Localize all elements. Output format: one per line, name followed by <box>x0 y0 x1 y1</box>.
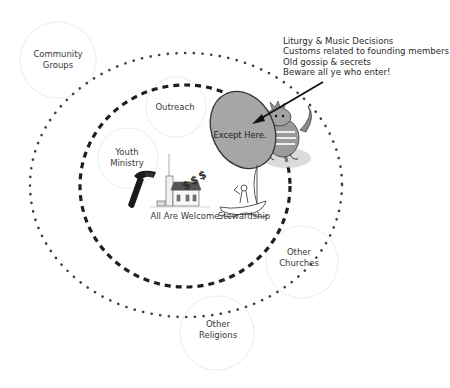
warning-note: Liturgy & Music Decisions Customs relate… <box>283 36 449 78</box>
label-line: Groups <box>33 60 82 71</box>
youth-ministry-label: Youth Ministry <box>110 147 144 169</box>
label-line: Community <box>33 49 82 60</box>
outreach-label: Outreach <box>155 102 194 113</box>
hammer-icon <box>128 171 156 208</box>
label-line: Youth <box>110 147 144 158</box>
sailboat-icon <box>220 165 268 217</box>
label-line: Ministry <box>110 158 144 169</box>
note-line: Liturgy & Music Decisions <box>283 36 449 46</box>
community-groups-label: Community Groups <box>33 49 82 71</box>
note-line: Beware all ye who enter! <box>283 67 449 77</box>
label-line: Other <box>199 319 237 330</box>
label-line: Churches <box>279 258 319 269</box>
all-are-welcome-label: All Are Welcome <box>150 211 219 222</box>
note-line: Old gossip & secrets <box>283 57 449 67</box>
except-here-label: Except Here. <box>213 130 266 141</box>
label-line: Other <box>279 247 319 258</box>
other-religions-label: Other Religions <box>199 319 237 341</box>
other-churches-label: Other Churches <box>279 247 319 269</box>
stewardship-label: Stewardship <box>218 211 270 222</box>
note-line: Customs related to founding members <box>283 46 449 56</box>
label-line: Outreach <box>155 102 194 113</box>
label-line: Religions <box>199 330 237 341</box>
